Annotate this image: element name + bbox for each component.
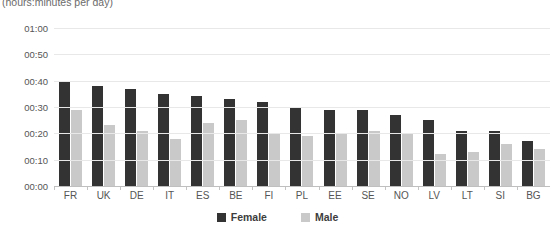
x-axis-tick-label: BG	[517, 190, 550, 206]
legend-swatch-icon	[217, 213, 226, 222]
bar-female	[390, 115, 401, 186]
bar-male	[137, 131, 148, 186]
y-axis-labels: 01:0000:5000:4000:3000:2000:1000:00	[0, 0, 48, 238]
x-axis-line	[54, 186, 550, 187]
y-axis-tick-label: 00:10	[24, 154, 48, 165]
x-axis-tick-label: DE	[120, 190, 153, 206]
y-axis-tick-label: 01:00	[24, 23, 48, 34]
legend-label: Female	[231, 211, 267, 223]
y-axis-tick-label: 00:30	[24, 102, 48, 113]
bar-male	[203, 123, 214, 186]
bar-chart: (hours:minutes per day) 01:0000:5000:400…	[0, 0, 555, 238]
legend-swatch-icon	[301, 213, 310, 222]
legend-item-male[interactable]: Male	[301, 211, 338, 223]
x-axis-tick-label: FI	[252, 190, 285, 206]
x-axis-tick-label: SE	[352, 190, 385, 206]
x-axis-tick-label: BE	[219, 190, 252, 206]
plot-area	[54, 28, 550, 186]
x-axis-tick-label: EE	[319, 190, 352, 206]
x-axis-tick-label: LT	[451, 190, 484, 206]
bar-female	[191, 96, 202, 186]
gridline	[54, 81, 550, 82]
bar-male	[71, 110, 82, 186]
x-axis-tick-label: PL	[285, 190, 318, 206]
bar-male	[468, 152, 479, 186]
bar-male	[236, 120, 247, 186]
bar-female	[489, 131, 500, 186]
gridline	[54, 107, 550, 108]
chart-legend: FemaleMale	[0, 211, 555, 223]
legend-item-female[interactable]: Female	[217, 211, 267, 223]
bar-female	[357, 110, 368, 186]
bar-male	[104, 125, 115, 186]
bar-female	[290, 107, 301, 186]
x-axis-tick-label: ES	[186, 190, 219, 206]
x-axis-labels: FRUKDEITESBEFIPLEESENOLVLTSIBG	[54, 190, 550, 206]
bar-female	[456, 131, 467, 186]
gridline	[54, 133, 550, 134]
gridline	[54, 160, 550, 161]
x-axis-tick-label: IT	[153, 190, 186, 206]
bar-female	[522, 141, 533, 186]
y-axis-tick-label: 00:20	[24, 128, 48, 139]
x-axis-tick-label: SI	[484, 190, 517, 206]
bar-male	[170, 139, 181, 186]
x-axis-tick-label: FR	[54, 190, 87, 206]
gridline	[54, 28, 550, 29]
y-axis-tick-label: 00:00	[24, 181, 48, 192]
gridline	[54, 54, 550, 55]
bar-female	[423, 120, 434, 186]
bar-female	[92, 86, 103, 186]
bar-male	[302, 136, 313, 186]
x-axis-tick-label: LV	[418, 190, 451, 206]
y-axis-tick-label: 00:50	[24, 49, 48, 60]
bar-male	[534, 149, 545, 186]
x-axis-tick-label: NO	[385, 190, 418, 206]
bar-female	[324, 110, 335, 186]
bar-male	[369, 131, 380, 186]
x-axis-tick-label: UK	[87, 190, 120, 206]
bar-female	[257, 102, 268, 186]
legend-label: Male	[315, 211, 338, 223]
bar-male	[501, 144, 512, 186]
bar-female	[125, 89, 136, 186]
bar-female	[224, 99, 235, 186]
y-axis-tick-label: 00:40	[24, 75, 48, 86]
